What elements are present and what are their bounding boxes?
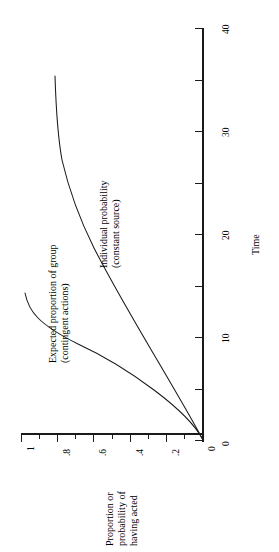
curve-label-expected-proportion-line-2: (contingent actions): [59, 244, 71, 363]
curve-label-individual-probability: Individual probability (constant source): [98, 181, 122, 269]
curve-label-expected-proportion-line-1: Expected proportion of group: [47, 244, 59, 363]
curve-label-expected-proportion: Expected proportion of group (contingent…: [47, 244, 71, 363]
curve-label-individual-probability-line-2: (constant source): [110, 181, 122, 269]
curves-group: [0, 0, 279, 552]
figure-canvas: 40 30 20 10 0 Time 1 .8 .6 .4 .2 0 Propo…: [0, 0, 279, 552]
curve-label-individual-probability-line-1: Individual probability: [98, 181, 110, 269]
series-individual-probability: [55, 76, 203, 440]
